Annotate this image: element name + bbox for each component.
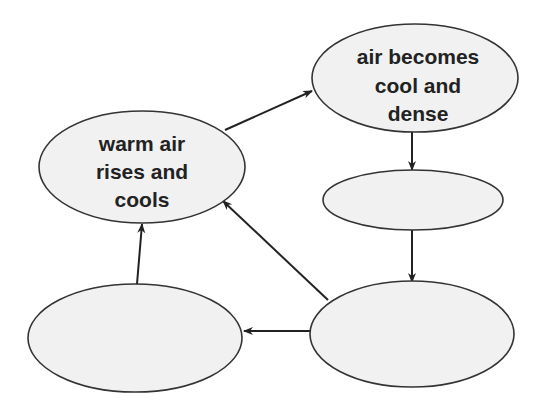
node-cool-dense-line1: air becomes	[357, 45, 480, 68]
node-warm-air-line3: cools	[115, 188, 170, 211]
node-blank-bottom-right	[310, 281, 514, 387]
arrow-warm-air-to-cool-dense	[225, 91, 312, 130]
node-blank-middle-right	[323, 170, 503, 230]
node-cool-dense-line2: cool and	[375, 74, 461, 97]
node-warm-air-line2: rises and	[96, 160, 188, 183]
node-warm-air-line1: warm air	[98, 132, 185, 155]
node-warm-air-rises: warm air rises and cools	[39, 111, 245, 223]
arrow-blank-bottom-right-to-warm-air	[223, 201, 328, 300]
node-air-cool-dense: air becomes cool and dense	[312, 24, 518, 132]
diagram-svg: warm air rises and cools air becomes coo…	[0, 0, 540, 411]
diagram-canvas: warm air rises and cools air becomes coo…	[0, 0, 540, 411]
node-blank-bottom-left	[28, 284, 242, 392]
node-cool-dense-line3: dense	[388, 102, 449, 125]
arrow-blank-bottom-left-to-warm-air	[137, 224, 142, 284]
